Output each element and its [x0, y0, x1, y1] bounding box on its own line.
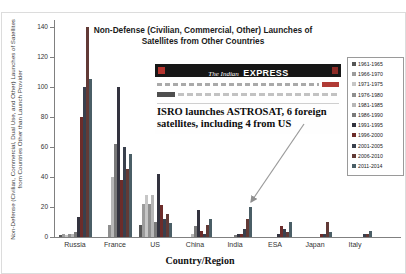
bar-india-2011-2014: [249, 207, 252, 237]
bar-group-italy: [335, 27, 375, 237]
x-axis-label: Country/Region: [110, 255, 290, 266]
category-label-china: China: [175, 241, 215, 248]
y-tick-mark: [50, 117, 54, 118]
bar-esa-2011-2014: [289, 222, 292, 237]
x-axis-line: [54, 237, 401, 238]
y-tick-mark: [50, 207, 54, 208]
category-label-japan: Japan: [295, 241, 335, 248]
y-tick-mark: [50, 87, 54, 88]
y-tick-mark: [50, 237, 54, 238]
category-label-us: US: [135, 241, 175, 248]
chart-canvas: Non-Defense (Civilian, Commercial, Other…: [0, 0, 406, 274]
y-tick-label: 20: [20, 203, 48, 210]
bar-russia-2011-2014: [89, 79, 92, 237]
y-tick-mark: [50, 57, 54, 58]
bar-china-2011-2014: [209, 219, 212, 237]
bar-us-2011-2014: [169, 223, 172, 237]
category-label-india: India: [215, 241, 255, 248]
bar-group-france: [95, 27, 135, 237]
y-tick-mark: [50, 147, 54, 148]
category-label-france: France: [95, 241, 135, 248]
bar-group-us: [135, 27, 175, 237]
category-label-italy: Italy: [335, 241, 375, 248]
bar-italy-2011-2014: [369, 231, 372, 237]
y-tick-label: 80: [20, 113, 48, 120]
y-tick-label: 120: [20, 53, 48, 60]
y-tick-label: 40: [20, 173, 48, 180]
y-tick-mark: [50, 27, 54, 28]
y-tick-mark: [50, 177, 54, 178]
y-tick-label: 0: [20, 233, 48, 240]
bar-group-japan: [295, 27, 335, 237]
bar-group-russia: [55, 27, 95, 237]
bar-japan-2011-2014: [329, 232, 332, 237]
bar-group-china: [175, 27, 215, 237]
bar-group-esa: [255, 27, 295, 237]
category-label-esa: ESA: [255, 241, 295, 248]
category-label-russia: Russia: [55, 241, 95, 248]
y-tick-label: 140: [20, 23, 48, 30]
bar-group-india: [215, 27, 255, 237]
bar-france-2011-2014: [129, 154, 132, 237]
y-tick-label: 60: [20, 143, 48, 150]
y-tick-label: 100: [20, 83, 48, 90]
